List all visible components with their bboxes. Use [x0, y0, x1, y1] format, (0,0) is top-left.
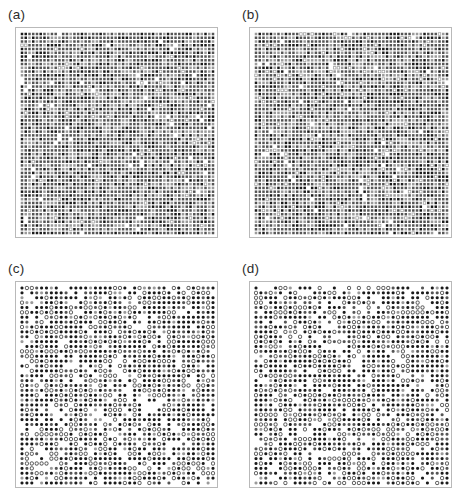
- panel-c-frame: [15, 281, 218, 488]
- panel-c-lattice: [16, 282, 218, 488]
- panel-b-label: (b): [242, 8, 259, 22]
- panel-b-frame: [249, 27, 452, 238]
- panel-a-lattice: [16, 28, 218, 238]
- panel-a-frame: [15, 27, 218, 238]
- panel-d-lattice: [250, 282, 452, 488]
- panel-d-frame: [249, 281, 452, 488]
- figure-container: (a) (b) (c) (d): [0, 0, 465, 503]
- panel-b-lattice: [250, 28, 452, 238]
- panel-d-label: (d): [242, 262, 259, 276]
- panel-a-label: (a): [8, 8, 25, 22]
- panel-c-label: (c): [8, 262, 24, 276]
